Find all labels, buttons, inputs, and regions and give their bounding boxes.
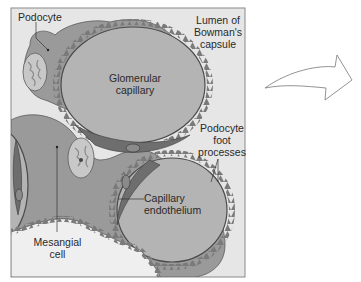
zoom-arrow (265, 55, 352, 100)
label-podocyte-foot-processes: Podocyte foot processes (196, 122, 248, 158)
label-podocyte: Podocyte (18, 11, 62, 23)
label-capillary-endothelium: Capillary endothelium (144, 192, 201, 216)
label-lumen-bowmans-capsule: Lumen of Bowman's capsule (192, 14, 244, 50)
label-mesangial-cell: Mesangial cell (30, 236, 85, 260)
label-glomerular-capillary: Glomerular capillary (95, 72, 175, 96)
glomerulus-diagram: Podocyte Lumen of Bowman's capsule Glome… (0, 0, 361, 282)
detail-bracket (255, 68, 264, 103)
